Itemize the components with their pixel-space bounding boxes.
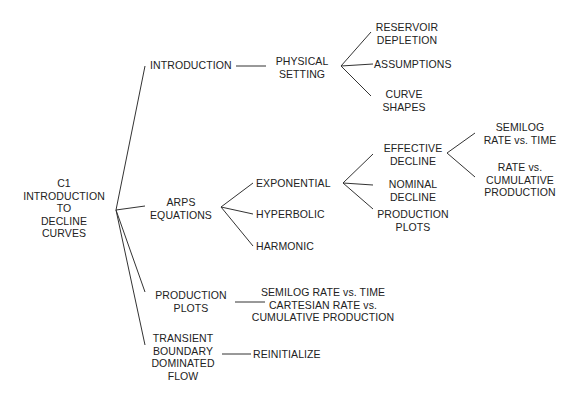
node-text: RATE vs. TIME bbox=[484, 134, 557, 147]
node-text: ARPS bbox=[150, 196, 212, 209]
node-text: DECLINE bbox=[23, 215, 105, 228]
edge-physical-assumptions bbox=[341, 64, 373, 66]
node-text: RESERVOIR bbox=[376, 21, 439, 34]
node-text: DECLINE bbox=[389, 191, 438, 204]
node-text: ASSUMPTIONS bbox=[374, 58, 452, 71]
node-text: C1 bbox=[23, 177, 105, 190]
node-text: PRODUCTION bbox=[155, 289, 227, 302]
edge-exponential-plots bbox=[343, 183, 373, 209]
node-introduction: INTRODUCTION bbox=[150, 59, 232, 72]
node-text: INTRODUCTION bbox=[150, 59, 232, 72]
node-text: DEPLETION bbox=[376, 34, 439, 47]
node-exponential: EXPONENTIAL bbox=[256, 177, 331, 190]
node-production-plots-exp: PRODUCTION PLOTS bbox=[377, 208, 449, 233]
node-reinitialize: REINITIALIZE bbox=[253, 348, 321, 361]
node-harmonic: HARMONIC bbox=[256, 240, 314, 253]
node-production-plots-detail: SEMILOG RATE vs. TIME CARTESIAN RATE vs.… bbox=[252, 286, 395, 324]
edge-root-arps bbox=[116, 206, 145, 210]
node-production-plots: PRODUCTION PLOTS bbox=[155, 289, 227, 314]
node-text: CURVES bbox=[23, 227, 105, 240]
node-semilog-rate-time: SEMILOG RATE vs. TIME bbox=[484, 121, 557, 146]
node-assumptions: ASSUMPTIONS bbox=[374, 58, 452, 71]
node-text: INTRODUCTION bbox=[23, 190, 105, 203]
node-text: PRODUCTION bbox=[377, 208, 449, 221]
node-text: SETTING bbox=[276, 68, 329, 81]
edge-physical-reservoir bbox=[341, 32, 371, 66]
node-text: DOMINATED bbox=[151, 357, 214, 370]
node-text: RATE vs. bbox=[484, 161, 556, 174]
edge-exponential-nominal bbox=[343, 183, 373, 185]
node-text: HARMONIC bbox=[256, 240, 314, 253]
node-text: TO bbox=[23, 202, 105, 215]
decline-curves-tree-diagram: C1 INTRODUCTION TO DECLINE CURVES INTROD… bbox=[0, 0, 575, 402]
edge-arps-exponential bbox=[221, 183, 253, 207]
node-text: PLOTS bbox=[377, 221, 449, 234]
node-text: CUMULATIVE PRODUCTION bbox=[252, 311, 395, 324]
node-text: PRODUCTION bbox=[484, 186, 556, 199]
node-text: EQUATIONS bbox=[150, 209, 212, 222]
node-text: SEMILOG RATE vs. TIME bbox=[252, 286, 395, 299]
node-nominal-decline: NOMINAL DECLINE bbox=[389, 178, 438, 203]
node-text: EXPONENTIAL bbox=[256, 177, 331, 190]
node-curve-shapes: CURVE SHAPES bbox=[382, 88, 425, 113]
edge-root-transient bbox=[116, 210, 145, 345]
node-text: NOMINAL bbox=[389, 178, 438, 191]
node-text: SEMILOG bbox=[484, 121, 557, 134]
node-text: TRANSIENT bbox=[151, 332, 214, 345]
node-text: CUMULATIVE bbox=[484, 174, 556, 187]
node-text: PHYSICAL bbox=[276, 55, 329, 68]
node-effective-decline: EFFECTIVE DECLINE bbox=[384, 142, 443, 167]
node-arps-equations: ARPS EQUATIONS bbox=[150, 196, 212, 221]
node-text: REINITIALIZE bbox=[253, 348, 321, 361]
edge-physical-curve bbox=[341, 66, 371, 96]
node-text: FLOW bbox=[151, 370, 214, 383]
edge-effective-rate bbox=[447, 153, 475, 177]
node-text: CARTESIAN RATE vs. bbox=[252, 299, 395, 312]
edge-effective-semilog bbox=[447, 133, 475, 153]
node-root: C1 INTRODUCTION TO DECLINE CURVES bbox=[23, 177, 105, 240]
node-text: PLOTS bbox=[155, 302, 227, 315]
node-rate-vs-cumulative: RATE vs. CUMULATIVE PRODUCTION bbox=[484, 161, 556, 199]
node-hyperbolic: HYPERBOLIC bbox=[256, 208, 325, 221]
node-reservoir-depletion: RESERVOIR DEPLETION bbox=[376, 21, 439, 46]
node-text: EFFECTIVE bbox=[384, 142, 443, 155]
edge-exponential-effective bbox=[343, 154, 373, 183]
node-text: SHAPES bbox=[382, 101, 425, 114]
node-text: DECLINE bbox=[384, 155, 443, 168]
node-text: BOUNDARY bbox=[151, 345, 214, 358]
node-text: CURVE bbox=[382, 88, 425, 101]
edge-root-introduction bbox=[116, 66, 145, 210]
node-transient: TRANSIENT BOUNDARY DOMINATED FLOW bbox=[151, 332, 214, 382]
node-physical-setting: PHYSICAL SETTING bbox=[276, 55, 329, 80]
node-text: HYPERBOLIC bbox=[256, 208, 325, 221]
